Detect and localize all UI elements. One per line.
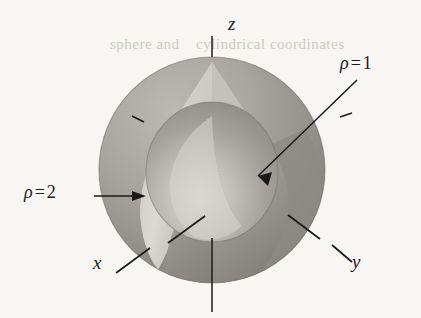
rho-2-value: 2	[47, 182, 56, 202]
rho-1-symbol: ρ	[340, 53, 349, 73]
rho-1-operator: =	[349, 53, 363, 73]
rho-1-label: ρ=1	[340, 54, 372, 72]
x-axis-label: x	[93, 253, 101, 272]
rho-1-value: 1	[363, 53, 372, 73]
inner-sphere-rho-1	[146, 102, 278, 242]
z-axis-label: z	[228, 14, 235, 33]
y-axis-label: y	[352, 252, 360, 271]
y-axis-outer-segment	[332, 245, 352, 262]
rho-2-label: ρ=2	[24, 183, 56, 201]
figure-container: sphere and cylindrical coordinates	[0, 0, 421, 318]
rho-2-symbol: ρ	[24, 182, 33, 202]
rim-tick-right	[340, 113, 352, 117]
rho-2-operator: =	[33, 182, 47, 202]
